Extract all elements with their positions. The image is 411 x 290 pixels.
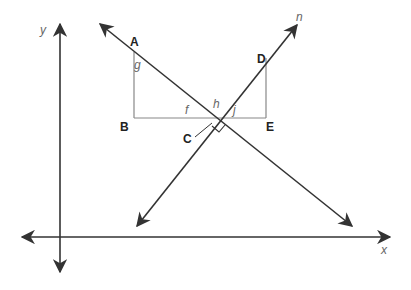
point-e-label: E xyxy=(266,120,274,134)
point-c-label: C xyxy=(183,132,192,146)
x-axis-label: x xyxy=(380,243,388,257)
point-b-label: B xyxy=(120,120,129,134)
point-d-label: D xyxy=(257,52,266,66)
angle-f-label: f xyxy=(185,103,190,117)
angle-g-label: g xyxy=(134,58,141,72)
triangle-abc xyxy=(134,52,266,118)
line-n-label: n xyxy=(296,10,303,24)
angle-j-label: j xyxy=(231,103,236,117)
geometry-diagram: y x A B C D E g f h j n xyxy=(0,0,411,290)
y-axis-label: y xyxy=(39,23,47,37)
angle-h-label: h xyxy=(213,97,220,111)
point-a-label: A xyxy=(130,35,139,49)
line-ac xyxy=(100,24,352,226)
